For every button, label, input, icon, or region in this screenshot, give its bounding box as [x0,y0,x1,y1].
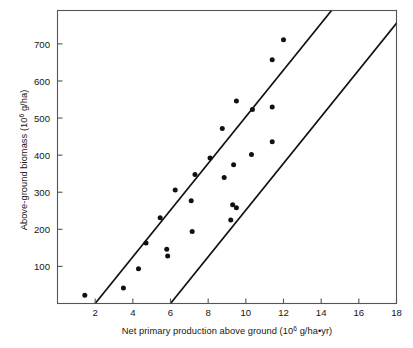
x-axis-label: Net primary production above ground (106… [57,326,397,336]
x-axis-tick-label: 6 [168,307,173,318]
x-axis-tick-label: 12 [278,307,289,318]
data-point [231,162,236,167]
x-axis-tick-label: 18 [391,307,402,318]
x-axis-tick-label: 2 [92,307,97,318]
x-axis-tick-label: 16 [353,307,364,318]
data-point [190,229,195,234]
data-point [220,126,225,131]
x-axis-label-pre: Net primary production above ground (10 [122,326,293,336]
data-point [136,266,141,271]
y-axis-tick-label: 300 [12,187,50,198]
data-point [270,57,275,62]
data-point [228,218,233,223]
x-axis-tick-label: 10 [240,307,251,318]
y-axis-tick-label: 600 [12,75,50,86]
y-axis-tick-label: 500 [12,113,50,124]
y-axis-label-post: g/ha) [19,90,29,114]
x-axis-tick-label: 14 [316,307,327,318]
y-axis-tick-label: 200 [12,224,50,235]
y-axis-tick-label: 100 [12,261,50,272]
data-point [250,107,255,112]
scatter-chart-figure: Above-ground biomass (106 g/ha) Net prim… [0,0,413,348]
x-axis-label-post: g/ha•yr) [297,326,332,336]
data-point [173,188,178,193]
x-axis-tick-label: 4 [130,307,135,318]
data-point [234,98,239,103]
data-point [234,205,239,210]
data-point [82,293,87,298]
y-axis-tick-label: 700 [12,38,50,49]
x-axis-tick-label: 8 [205,307,210,318]
data-point [192,172,197,177]
data-point [222,175,227,180]
y-axis-tick-label: 400 [12,150,50,161]
data-point [165,254,170,259]
y-axis-label-pre: Above-ground biomass (10 [19,118,29,231]
data-point [189,198,194,203]
data-point [158,215,163,220]
plot-area [0,0,413,348]
data-point [144,241,149,246]
data-point [281,37,286,42]
data-point [249,152,254,157]
data-point [270,104,275,109]
data-point [164,247,169,252]
data-point [270,139,275,144]
plot-frame [58,11,397,304]
data-point [208,156,213,161]
data-point [121,285,126,290]
